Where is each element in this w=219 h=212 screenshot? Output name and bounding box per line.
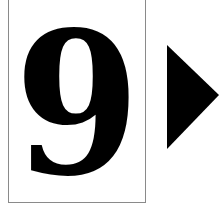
play-triangle-right-icon <box>167 45 219 149</box>
digit-label: 9 <box>14 6 139 202</box>
next-button[interactable] <box>167 45 219 149</box>
digit-card: 9 <box>8 0 146 203</box>
